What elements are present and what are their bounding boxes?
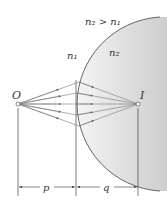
- image-label: I: [139, 89, 145, 102]
- image-point: [136, 102, 140, 106]
- incident-rays: [18, 82, 79, 126]
- medium2-label: n₂: [109, 47, 119, 58]
- medium1-label: n₁: [67, 50, 77, 61]
- object-distance-label: p: [43, 182, 50, 193]
- condition-label: n₂ > n₁: [85, 16, 121, 27]
- object-point: [16, 102, 20, 106]
- image-distance-label: q: [103, 182, 109, 193]
- object-label: O: [12, 89, 21, 102]
- refraction-diagram: n₂ > n₁ n₁ n₂ O I p q: [0, 0, 167, 209]
